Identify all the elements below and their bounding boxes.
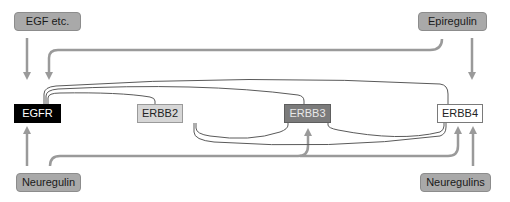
- ligand-epiregulin: Epiregulin: [418, 12, 487, 31]
- receptor-erbb4-label: ERBB4: [442, 108, 478, 119]
- link-egfr-erbb2: [48, 93, 155, 104]
- ligand-epiregulin-label: Epiregulin: [428, 16, 477, 27]
- receptor-erbb4: ERBB4: [437, 104, 483, 123]
- receptor-erbb2-label: ERBB2: [142, 108, 178, 119]
- ligand-neuregulins-label: Neuregulins: [426, 177, 485, 188]
- ligand-egf: EGF etc.: [14, 12, 81, 31]
- ligand-egf-label: EGF etc.: [26, 16, 69, 27]
- receptor-egfr-label: EGFR: [22, 108, 53, 119]
- arrow-epiregulin-to-egfr: [49, 39, 442, 76]
- arrow-neuregulin-to-erbb3: [50, 132, 308, 166]
- link-erbb2-erbb3: [196, 123, 288, 138]
- receptor-egfr: EGFR: [14, 104, 61, 123]
- arrow-neuregulin-to-erbb4: [300, 130, 458, 156]
- ligand-neuregulin: Neuregulin: [16, 173, 81, 192]
- ligand-neuregulins: Neuregulins: [420, 173, 491, 192]
- receptor-erbb2: ERBB2: [137, 104, 183, 123]
- link-egfr-erbb3: [46, 87, 304, 104]
- receptor-erbb3-label: ERBB3: [289, 108, 325, 119]
- ligand-neuregulin-label: Neuregulin: [22, 177, 75, 188]
- link-egfr-erbb4: [44, 79, 448, 104]
- link-erbb3-erbb4: [328, 123, 444, 137]
- receptor-erbb3: ERBB3: [284, 104, 331, 123]
- link-erbb2-erbb4: [194, 123, 446, 145]
